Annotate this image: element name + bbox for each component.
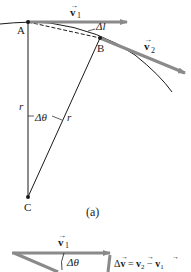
- delta-v-equation: Δv = v2 − v1 → → →: [114, 253, 179, 271]
- part-b: v → 1 Δθ Δv = v2 − v1 → → →: [12, 231, 179, 272]
- circular-motion-diagram: A B C v → 1 v → 2 Δl r r Δθ (a) v → 1 Δθ…: [0, 0, 191, 272]
- delta-v-vector-b: [108, 255, 110, 272]
- svg-text:→: →: [172, 253, 179, 261]
- v2-vector-b: [14, 253, 58, 272]
- label-delta-theta-a: Δθ: [34, 111, 47, 123]
- label-radius-left: r: [19, 100, 24, 112]
- label-v2-sub: 2: [151, 46, 155, 55]
- label-point-c: C: [24, 201, 31, 213]
- label-v1-sub: 1: [77, 11, 81, 20]
- label-v1-b-sub: 1: [65, 241, 69, 250]
- svg-text:→: →: [147, 253, 154, 261]
- label-v1-arrow: →: [70, 1, 78, 10]
- point-b-dot: [98, 36, 102, 40]
- label-v1-b-arrow: →: [58, 231, 66, 240]
- label-point-b: B: [97, 42, 104, 54]
- caption-a: (a): [86, 205, 99, 219]
- v2-vector-arrow: [100, 38, 185, 73]
- label-point-a: A: [17, 24, 25, 36]
- label-delta-l: Δl: [95, 20, 106, 32]
- angle-arc-b: [61, 253, 64, 270]
- svg-text:→: →: [121, 253, 128, 261]
- label-delta-theta-b: Δθ: [66, 256, 79, 268]
- point-a-dot: [26, 20, 30, 24]
- angle-leader-right: [52, 116, 62, 120]
- delta-l-leader: [88, 29, 95, 31]
- label-v2-arrow: →: [144, 35, 152, 44]
- label-radius-right: r: [67, 111, 72, 123]
- chord-dashed-line: [28, 22, 100, 38]
- point-c-dot: [26, 195, 30, 199]
- part-a: A B C v → 1 v → 2 Δl r r Δθ (a): [0, 1, 185, 219]
